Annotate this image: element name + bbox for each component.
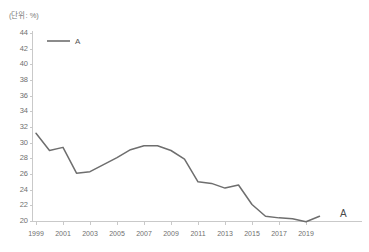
y-axis-tick-label: 34 xyxy=(20,106,28,115)
y-axis-tick-label: 26 xyxy=(20,169,28,178)
y-axis-tick-label: 30 xyxy=(20,138,28,147)
chart-legend: A xyxy=(47,37,81,46)
y-axis-tick-labels: 20222426283032343638404244 xyxy=(20,28,28,225)
x-axis-tick-label: 2003 xyxy=(82,230,98,237)
chart-plot-area: 20222426283032343638404244 1999200120032… xyxy=(0,0,369,252)
data-series-group xyxy=(36,133,320,222)
series-line-a xyxy=(36,133,320,222)
line-chart-figure: (단위: %) 20222426283032343638404244 19992… xyxy=(0,0,369,252)
series-endpoint-label-a: A xyxy=(340,208,347,219)
x-axis-tick-label: 2001 xyxy=(55,230,71,237)
x-axis-tick-label: 2009 xyxy=(163,230,179,237)
y-axis-tick-label: 44 xyxy=(20,28,28,37)
y-axis-tick-label: 40 xyxy=(20,59,28,68)
x-axis-tick-label: 2019 xyxy=(298,230,314,237)
y-axis-tick-label: 28 xyxy=(20,153,28,162)
y-axis-tick-label: 20 xyxy=(20,216,28,225)
y-axis-tick-label: 22 xyxy=(20,200,28,209)
legend-label-a: A xyxy=(75,37,81,46)
x-axis-tick-label: 2013 xyxy=(217,230,233,237)
y-axis-tick-label: 24 xyxy=(20,185,28,194)
y-axis-tick-label: 38 xyxy=(20,75,28,84)
x-axis-tick-marks xyxy=(37,222,307,226)
x-axis-tick-label: 2017 xyxy=(271,230,287,237)
y-axis-tick-label: 32 xyxy=(20,122,28,131)
x-axis-tick-label: 2015 xyxy=(244,230,260,237)
x-axis-tick-label: 1999 xyxy=(28,230,44,237)
x-axis-tick-label: 2011 xyxy=(190,230,205,237)
y-axis-tick-label: 36 xyxy=(20,91,28,100)
x-axis-tick-label: 2007 xyxy=(136,230,152,237)
x-axis-tick-label: 2005 xyxy=(109,230,125,237)
y-axis-tick-label: 42 xyxy=(20,44,28,53)
x-axis-tick-labels: 1999200120032005200720092011201320152017… xyxy=(28,230,314,237)
